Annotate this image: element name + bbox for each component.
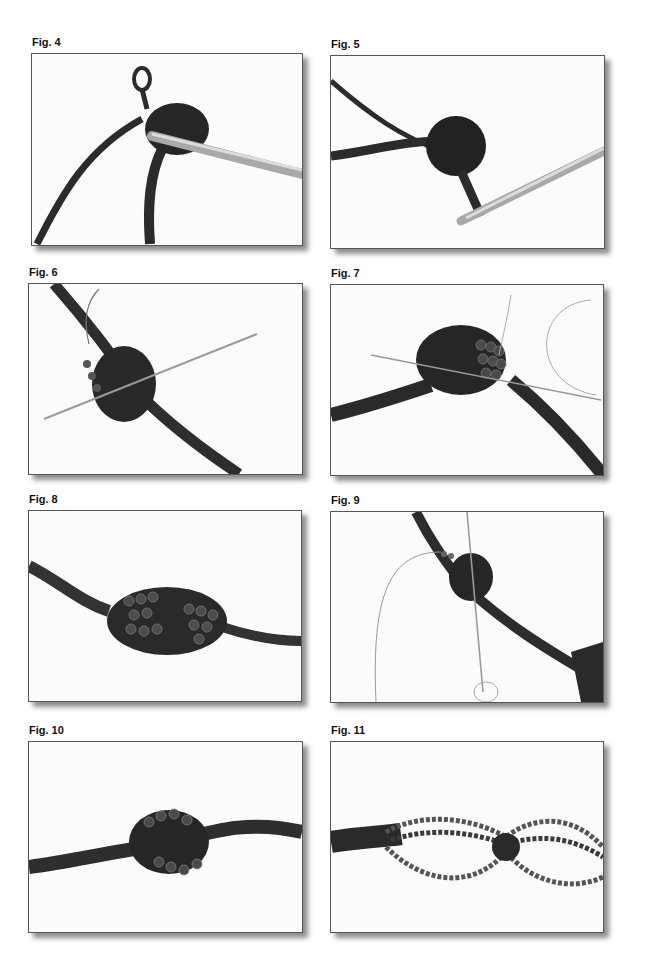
needle-photo (28, 283, 303, 475)
crochet-hook-photo (330, 55, 605, 249)
needle-photo (330, 284, 604, 476)
photo-illustration-icon (331, 742, 603, 932)
beaded-knot-photo (28, 741, 303, 933)
photo-illustration-icon (331, 56, 604, 248)
bead-strands-photo (330, 741, 604, 933)
beaded-knot-photo (28, 510, 302, 702)
figure-label: Fig. 4 (32, 36, 61, 48)
figure-label: Fig. 8 (29, 493, 58, 505)
figure-label: Fig. 7 (331, 267, 360, 279)
figure-label: Fig. 5 (331, 38, 360, 50)
figure-label: Fig. 6 (29, 266, 58, 278)
photo-illustration-icon (29, 511, 301, 701)
photo-illustration-icon (331, 512, 603, 702)
figure-label: Fig. 10 (29, 724, 64, 736)
needle-photo (330, 511, 604, 703)
photo-illustration-icon (29, 284, 302, 474)
crochet-hook-photo (31, 53, 303, 246)
photo-illustration-icon (29, 742, 302, 932)
photo-illustration-icon (331, 285, 603, 475)
figure-label: Fig. 11 (331, 724, 365, 736)
figure-label: Fig. 9 (331, 494, 360, 506)
photo-illustration-icon (32, 54, 302, 245)
